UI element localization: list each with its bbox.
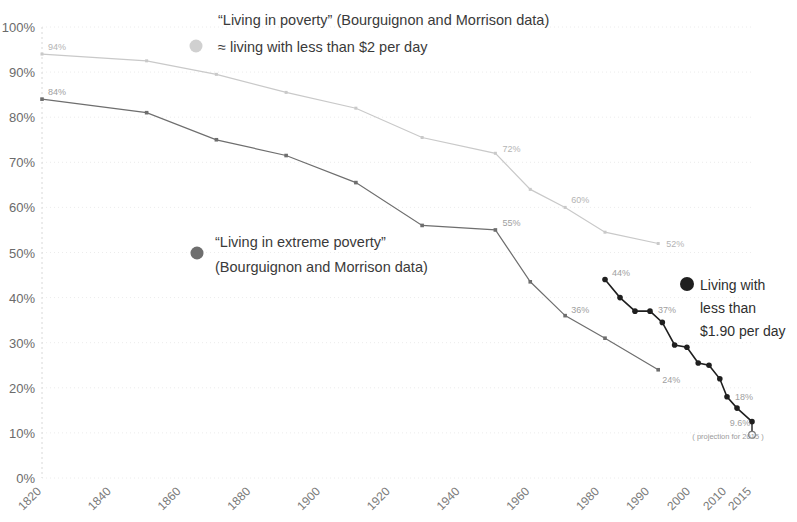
data-point <box>603 336 607 340</box>
data-point <box>724 394 730 400</box>
data-point-label: 72% <box>502 144 520 154</box>
x-tick-label: 2000 <box>664 484 693 513</box>
data-point <box>494 228 498 232</box>
x-tick-label: 2010 <box>700 484 729 513</box>
data-point <box>421 136 424 139</box>
x-tick-label: 1820 <box>15 484 44 513</box>
data-point <box>284 154 288 158</box>
data-point-label: 94% <box>48 42 66 52</box>
extreme-poverty-annotation: “Living in extreme poverty” (Bourguignon… <box>191 234 428 275</box>
x-tick-label: 1940 <box>434 484 463 513</box>
data-point <box>617 295 623 301</box>
data-point <box>494 152 497 155</box>
data-point <box>604 231 607 234</box>
data-point <box>706 362 712 368</box>
data-point <box>657 242 660 245</box>
y-tick-label: 50% <box>9 246 35 261</box>
data-point <box>145 111 149 115</box>
data-point <box>420 224 424 228</box>
x-tick-label: 1880 <box>225 484 254 513</box>
y-tick-label: 0% <box>16 471 35 486</box>
data-point-label: 44% <box>612 268 630 278</box>
poverty-annotation-line2: ≈ living with less than $2 per day <box>218 39 428 55</box>
poverty-chart: 0%10%20%30%40%50%60%70%80%90%100% 182018… <box>0 0 797 522</box>
y-tick-label: 100% <box>2 20 36 35</box>
y-tick-labels: 0%10%20%30%40%50%60%70%80%90%100% <box>2 20 36 486</box>
dollar190-annotation-line2: less than <box>700 300 756 316</box>
x-tick-label: 1920 <box>364 484 393 513</box>
data-point-label: 84% <box>48 87 66 97</box>
poverty-annotation: “Living in poverty” (Bourguignon and Mor… <box>190 12 550 55</box>
data-point <box>41 53 44 56</box>
data-point <box>672 342 678 348</box>
y-tick-label: 10% <box>9 426 35 441</box>
series-living-in-poverty <box>41 53 660 245</box>
data-point <box>529 188 532 191</box>
y-tick-label: 60% <box>9 200 35 215</box>
data-point-label: 60% <box>571 195 589 205</box>
data-point <box>647 308 653 314</box>
data-point-label: 24% <box>662 375 680 385</box>
data-point <box>602 277 608 283</box>
dollar190-annotation-line1: Living with <box>700 277 765 293</box>
x-tick-label: 2015 <box>725 484 754 513</box>
data-point <box>684 344 690 350</box>
data-point <box>215 138 219 142</box>
data-point <box>354 181 358 185</box>
x-tick-label: 1860 <box>155 484 184 513</box>
y-tick-label: 20% <box>9 381 35 396</box>
gridlines <box>42 27 752 478</box>
x-tick-label: 1840 <box>85 484 114 513</box>
dark-dot-icon <box>680 277 694 291</box>
extreme-poverty-annotation-line1: “Living in extreme poverty” <box>215 234 386 250</box>
data-point <box>40 97 44 101</box>
data-point <box>563 314 567 318</box>
x-tick-label: 1900 <box>294 484 323 513</box>
dollar190-annotation-line3: $1.90 per day <box>700 323 786 339</box>
x-tick-label: 1960 <box>504 484 533 513</box>
data-point <box>215 73 218 76</box>
poverty-annotation-line1: “Living in poverty” (Bourguignon and Mor… <box>218 12 549 28</box>
y-tick-label: 30% <box>9 336 35 351</box>
y-tick-label: 40% <box>9 291 35 306</box>
x-tick-labels: 1820184018601880190019201940196019801990… <box>15 484 754 513</box>
data-point-labels: 94%72%60%52%84%55%36%24%44%37%18% <box>48 42 753 402</box>
x-tick-label: 1980 <box>573 484 602 513</box>
y-tick-label: 90% <box>9 65 35 80</box>
data-point <box>656 368 660 372</box>
y-tick-label: 70% <box>9 155 35 170</box>
data-point <box>717 376 723 382</box>
data-point-label: 18% <box>735 392 753 402</box>
light-dot-icon <box>190 40 203 53</box>
data-point <box>695 360 701 366</box>
projection-value-label: 9.6% <box>730 418 751 428</box>
data-point-label: 55% <box>502 218 520 228</box>
data-point <box>285 91 288 94</box>
x-tick-label: 1990 <box>623 484 652 513</box>
data-point-label: 36% <box>571 305 589 315</box>
data-point-label: 52% <box>666 239 684 249</box>
chart-canvas: 0%10%20%30%40%50%60%70%80%90%100% 182018… <box>0 0 797 522</box>
series-line <box>42 54 658 243</box>
data-point-label: 37% <box>658 305 676 315</box>
extreme-poverty-annotation-line2: (Bourguignon and Morrison data) <box>215 259 428 275</box>
projection-note-text: ( projection for 2015 ) <box>692 432 764 441</box>
data-point <box>145 59 148 62</box>
data-point <box>528 280 532 284</box>
data-point <box>564 206 567 209</box>
grey-dot-icon <box>191 247 204 260</box>
data-point <box>354 107 357 110</box>
data-point <box>632 308 638 314</box>
dollar190-annotation: Living with less than $1.90 per day <box>680 277 786 339</box>
data-point <box>734 405 740 411</box>
y-tick-label: 80% <box>9 110 35 125</box>
data-point <box>660 320 666 326</box>
